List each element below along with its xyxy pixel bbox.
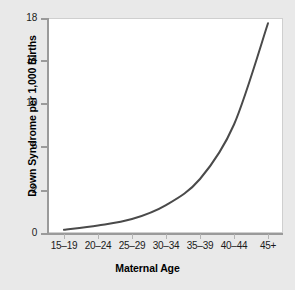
- y-tick-mark-2: [41, 190, 47, 192]
- x-tick-mark-1: [98, 234, 99, 239]
- x-tick-mark-6: [268, 234, 269, 239]
- x-tick-mark-3: [166, 234, 167, 239]
- x-axis-line: [47, 233, 283, 235]
- x-tick-mark-5: [234, 234, 235, 239]
- x-axis-title: Maternal Age: [0, 262, 295, 274]
- y-tick-mark-10: [41, 103, 47, 105]
- y-tick-mark-6: [41, 146, 47, 148]
- x-tick-mark-2: [132, 234, 133, 239]
- y-axis-line: [47, 18, 49, 233]
- y-tick-mark-0: [41, 233, 47, 235]
- plot-area: [48, 18, 283, 233]
- x-tick-label-45-plus: 45+: [245, 240, 291, 251]
- y-tick-mark-18: [41, 18, 47, 20]
- x-tick-mark-0: [64, 234, 65, 239]
- y-tick-mark-14: [41, 60, 47, 62]
- x-tick-mark-4: [200, 234, 201, 239]
- chart-figure: 18 14 10 6 2 0 15–19 20–24 25–29 30–34 3…: [0, 0, 295, 290]
- y-tick-label-0: 0: [11, 228, 37, 238]
- y-axis-title: Down Syndrome per 1,000 Births: [26, 21, 38, 211]
